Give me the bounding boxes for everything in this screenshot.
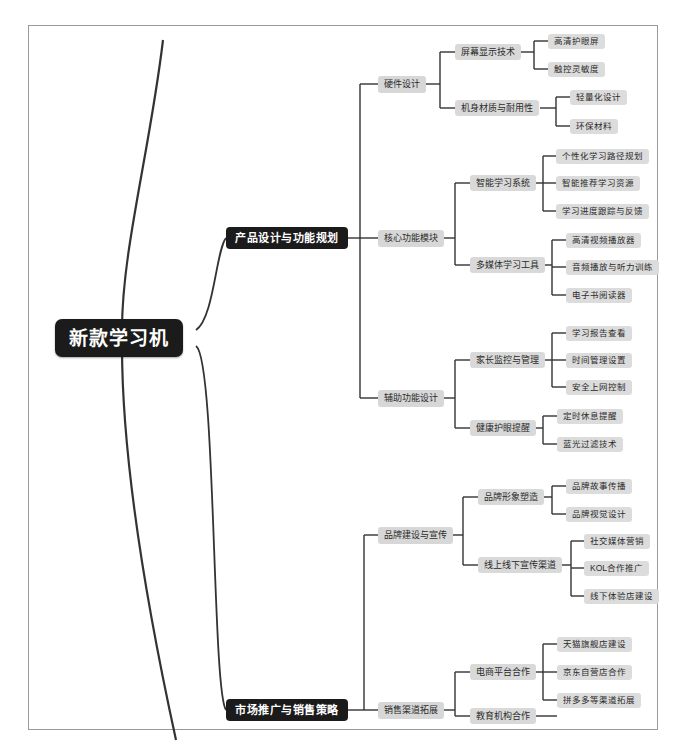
node-auxiliary-function-design[interactable]: 辅助功能设计 [378,390,444,407]
leaf-label: 高清护眼屏 [554,37,599,46]
node-label: 核心功能模块 [384,234,438,243]
leaf-label: 音频播放与听力训练 [572,263,653,272]
node-label: 电商平台合作 [476,668,530,677]
leaf-label: 品牌视觉设计 [572,510,626,519]
branch-node-marketing-sales[interactable]: 市场推广与销售策略 [226,699,348,721]
node-education-institution-cooperation[interactable]: 教育机构合作 [470,708,536,724]
leaf-label: 定时休息提醒 [563,412,617,421]
leaf-label: 环保材料 [576,122,612,131]
leaf-label: 蓝光过滤技术 [563,440,617,449]
leaf-label: 触控灵敏度 [554,65,599,74]
leaf-time-management-settings[interactable]: 时间管理设置 [566,353,632,368]
mindmap-canvas: 新款学习机 产品设计与功能规划 硬件设计 核心功能模块 辅助功能设计 屏幕显示技… [0,0,682,749]
leaf-label: 电子书阅读器 [572,291,626,300]
leaf-label: 个性化学习路径规划 [562,152,643,161]
leaf-scheduled-rest-reminder[interactable]: 定时休息提醒 [557,409,623,424]
node-label: 品牌形象塑造 [484,493,538,502]
node-hardware-design[interactable]: 硬件设计 [378,76,426,93]
leaf-hd-video-player[interactable]: 高清视频播放器 [566,233,641,248]
node-label: 多媒体学习工具 [476,261,539,270]
leaf-label: 学习进度跟踪与反馈 [562,207,643,216]
leaf-tmall-flagship-store[interactable]: 天猫旗舰店建设 [557,637,632,652]
node-label: 线上线下宣传渠道 [484,561,556,570]
node-multimedia-learning-tools[interactable]: 多媒体学习工具 [470,257,545,273]
leaf-brand-story-spread[interactable]: 品牌故事传播 [566,479,632,494]
node-label: 机身材质与耐用性 [461,104,533,113]
leaf-brand-visual-design[interactable]: 品牌视觉设计 [566,507,632,522]
branch-node-label: 市场推广与销售策略 [235,705,339,716]
branch-node-label: 产品设计与功能规划 [235,233,339,244]
node-label: 品牌建设与宣传 [384,531,447,540]
page-frame [28,25,658,730]
leaf-label: 京东自营店合作 [563,668,626,677]
node-sales-channel-expansion[interactable]: 销售渠道拓展 [378,702,444,719]
node-label: 销售渠道拓展 [384,706,438,715]
leaf-lightweight-design[interactable]: 轻量化设计 [570,90,627,105]
leaf-label: 安全上网控制 [572,383,626,392]
node-screen-display-tech[interactable]: 屏幕显示技术 [455,44,521,60]
leaf-label: 品牌故事传播 [572,482,626,491]
node-eye-health-reminder[interactable]: 健康护眼提醒 [470,420,536,436]
node-smart-learning-system[interactable]: 智能学习系统 [470,175,536,191]
leaf-label: 智能推荐学习资源 [562,179,634,188]
node-label: 家长监控与管理 [476,356,539,365]
leaf-label: 天猫旗舰店建设 [563,640,626,649]
leaf-kol-cooperation-promotion[interactable]: KOL合作推广 [584,561,649,576]
node-label: 智能学习系统 [476,179,530,188]
leaf-jd-self-operated-store[interactable]: 京东自营店合作 [557,665,632,680]
node-online-offline-channels[interactable]: 线上线下宣传渠道 [478,557,562,573]
node-core-function-modules[interactable]: 核心功能模块 [378,230,444,247]
branch-node-product-design[interactable]: 产品设计与功能规划 [226,227,348,249]
leaf-ebook-reader[interactable]: 电子书阅读器 [566,288,632,303]
node-parental-monitoring[interactable]: 家长监控与管理 [470,352,545,368]
leaf-smart-resource-recommendation[interactable]: 智能推荐学习资源 [556,176,640,191]
leaf-label: 高清视频播放器 [572,236,635,245]
node-label: 屏幕显示技术 [461,48,515,57]
node-label: 教育机构合作 [476,712,530,721]
root-node-label: 新款学习机 [69,329,169,348]
leaf-learning-report-view[interactable]: 学习报告查看 [566,326,632,341]
node-label: 硬件设计 [384,80,420,89]
leaf-social-media-marketing[interactable]: 社交媒体营销 [584,534,650,549]
leaf-blue-light-filter-tech[interactable]: 蓝光过滤技术 [557,437,623,452]
leaf-audio-listening-training[interactable]: 音频播放与听力训练 [566,260,659,275]
leaf-label: 轻量化设计 [576,93,621,102]
node-body-material-durability[interactable]: 机身材质与耐用性 [455,100,539,116]
node-brand-image-shaping[interactable]: 品牌形象塑造 [478,489,544,505]
root-node[interactable]: 新款学习机 [55,319,183,357]
leaf-label: 学习报告查看 [572,329,626,338]
leaf-label: 社交媒体营销 [590,537,644,546]
leaf-offline-experience-store[interactable]: 线下体验店建设 [584,589,659,604]
leaf-label: 线下体验店建设 [590,592,653,601]
leaf-label: KOL合作推广 [590,564,643,573]
node-brand-building[interactable]: 品牌建设与宣传 [378,527,453,544]
leaf-eco-material[interactable]: 环保材料 [570,119,618,134]
leaf-personalized-learning-path[interactable]: 个性化学习路径规划 [556,149,649,164]
leaf-label: 拼多多等渠道拓展 [563,696,635,705]
leaf-pdd-channel-expansion[interactable]: 拼多多等渠道拓展 [557,693,641,708]
leaf-safe-internet-control[interactable]: 安全上网控制 [566,380,632,395]
node-ecommerce-platform-cooperation[interactable]: 电商平台合作 [470,664,536,680]
leaf-hd-eye-protection-screen[interactable]: 高清护眼屏 [548,34,605,49]
leaf-label: 时间管理设置 [572,356,626,365]
leaf-touch-sensitivity[interactable]: 触控灵敏度 [548,62,605,77]
node-label: 健康护眼提醒 [476,424,530,433]
leaf-progress-tracking-feedback[interactable]: 学习进度跟踪与反馈 [556,204,649,219]
node-label: 辅助功能设计 [384,394,438,403]
